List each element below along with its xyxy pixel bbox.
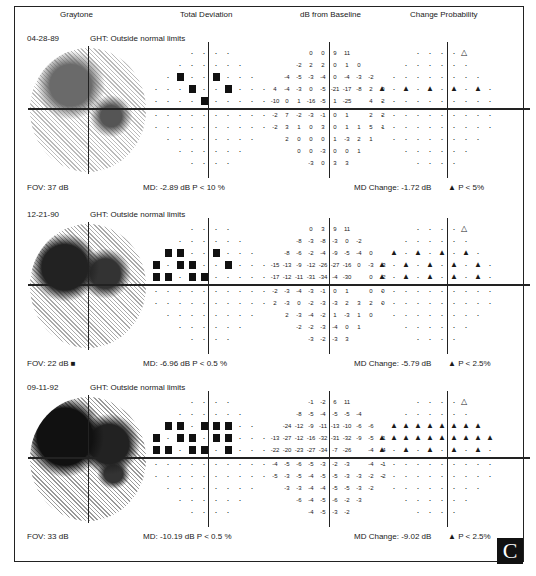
db-value: -12 <box>305 260 317 270</box>
probability-dot-icon <box>388 272 400 282</box>
deviation-dot-icon <box>198 507 210 517</box>
db-value: -12 <box>281 272 293 282</box>
deviation-dot-icon <box>234 122 246 132</box>
deviation-dot-icon <box>222 224 234 234</box>
probability-dot-icon <box>436 459 448 469</box>
deviation-dot-icon <box>198 158 210 168</box>
probability-dot-icon <box>400 409 412 419</box>
db-value <box>353 286 365 296</box>
filled-triangle-icon <box>424 421 436 431</box>
deviation-dot-icon <box>174 483 186 493</box>
probability-dot-icon <box>412 310 424 320</box>
probability-dot-icon <box>400 322 412 332</box>
db-value: -5 <box>317 495 329 505</box>
probability-dot-icon <box>400 72 412 82</box>
probability-dot-icon <box>400 298 412 308</box>
deviation-dot-icon <box>234 72 246 82</box>
probability-dot-icon <box>436 158 448 168</box>
deviation-dot-icon <box>246 421 258 431</box>
deviation-dot-icon <box>222 48 234 58</box>
probability-dot-icon <box>412 122 424 132</box>
deviation-dot-icon <box>258 471 270 481</box>
filled-triangle-icon <box>424 84 436 94</box>
deviation-dot-icon <box>198 459 210 469</box>
probability-dot-icon <box>412 260 424 270</box>
filled-triangle-icon <box>424 445 436 455</box>
db-value: 3 <box>281 122 293 132</box>
deviation-dot-icon <box>198 334 210 344</box>
probability-dot-icon <box>436 286 448 296</box>
db-value: -5 <box>269 471 281 481</box>
deviation-dot-icon <box>174 134 186 144</box>
db-value: -1 <box>317 286 329 296</box>
deviation-dot-icon <box>258 433 270 443</box>
probability-dot-icon <box>448 146 460 156</box>
deviation-dot-icon <box>234 248 246 258</box>
deviation-block-icon <box>222 433 234 443</box>
probability-dot-icon <box>424 146 436 156</box>
probability-dot-icon <box>436 445 448 455</box>
db-value: -26 <box>317 260 329 270</box>
db-value: -4 <box>305 507 317 517</box>
filled-triangle-icon <box>412 421 424 431</box>
db-value: 0 <box>329 286 341 296</box>
db-value: 1 <box>293 122 305 132</box>
deviation-dot-icon <box>222 272 234 282</box>
deviation-dot-icon <box>222 146 234 156</box>
change-p-label: ▲ P < 5% <box>448 183 484 192</box>
probability-dot-icon <box>436 96 448 106</box>
db-value: -20 <box>281 445 293 455</box>
probability-dot-icon <box>400 110 412 120</box>
db-value: -17 <box>341 84 353 94</box>
probability-dot-icon <box>472 286 484 296</box>
probability-dot-icon <box>472 110 484 120</box>
filled-triangle-icon <box>472 433 484 443</box>
probability-dot-icon <box>472 248 484 258</box>
probability-dot-icon <box>484 110 496 120</box>
db-value: 3 <box>317 224 329 234</box>
probability-dot-icon <box>460 146 472 156</box>
deviation-dot-icon <box>210 459 222 469</box>
deviation-dot-icon <box>258 96 270 106</box>
db-value: -3 <box>305 334 317 344</box>
deviation-dot-icon <box>186 248 198 258</box>
filled-triangle-icon <box>400 421 412 431</box>
db-value: 9 <box>329 224 341 234</box>
db-value: -6 <box>293 459 305 469</box>
deviation-block-icon <box>162 248 174 258</box>
probability-dot-icon <box>412 224 424 234</box>
probability-dot-icon <box>460 96 472 106</box>
open-triangle-icon <box>458 48 470 58</box>
db-value: -6 <box>329 495 341 505</box>
db-value: -32 <box>317 433 329 443</box>
deviation-dot-icon <box>198 134 210 144</box>
exam-date: 09-11-92 <box>27 383 58 392</box>
probability-dot-icon <box>484 84 496 94</box>
filled-triangle-icon <box>460 248 472 258</box>
db-value: -9 <box>353 433 365 443</box>
db-value: 1 <box>329 310 341 320</box>
deviation-dot-icon <box>246 298 258 308</box>
deviation-dot-icon <box>222 60 234 70</box>
db-value: -2 <box>269 110 281 120</box>
exam-date: 04-28-89 <box>27 34 59 43</box>
filled-triangle-icon <box>448 84 460 94</box>
md-change-label: MD Change: -9.02 dB <box>354 532 431 541</box>
probability-dot-icon <box>436 483 448 493</box>
filled-triangle-icon <box>400 272 412 282</box>
deviation-dot-icon <box>258 459 270 469</box>
db-value: -4 <box>305 310 317 320</box>
filled-triangle-icon <box>424 272 436 282</box>
filled-triangle-icon <box>376 272 388 282</box>
db-value: -2 <box>365 72 377 82</box>
db-value <box>353 459 365 469</box>
db-value: 0 <box>329 146 341 156</box>
deviation-dot-icon <box>162 110 174 120</box>
probability-dot-icon <box>412 72 424 82</box>
db-value: -4 <box>329 322 341 332</box>
header-total-deviation: Total Deviation <box>180 10 232 19</box>
probability-dot-icon <box>424 471 436 481</box>
probability-dot-icon <box>448 236 460 246</box>
probability-dot-icon <box>436 272 448 282</box>
db-value <box>353 445 365 455</box>
